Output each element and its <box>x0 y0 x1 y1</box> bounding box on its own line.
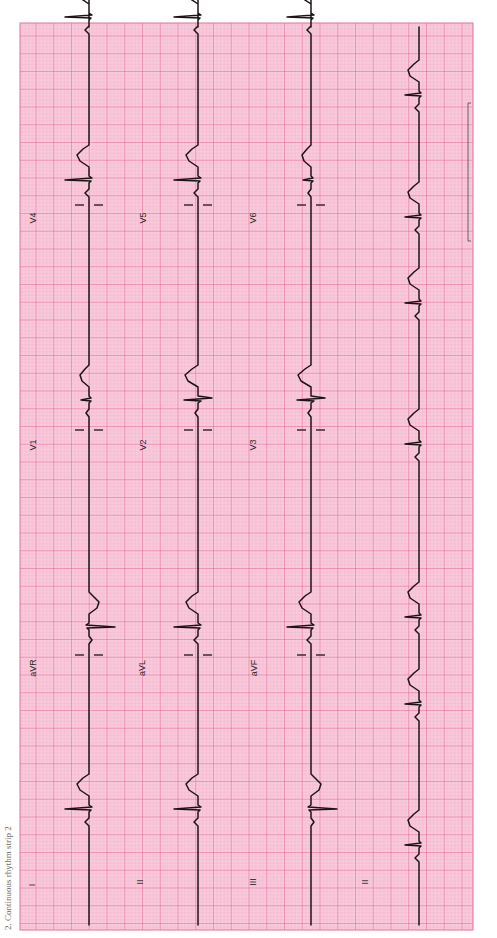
lead-label-i: I <box>27 884 37 887</box>
lead-label-ii: II <box>135 879 145 884</box>
grid-lines <box>20 23 473 930</box>
lead-label-iii: III <box>248 878 258 886</box>
lead-label-ii: II <box>360 879 370 884</box>
lead-label-v6: V6 <box>248 212 258 223</box>
lead-label-v2: V2 <box>138 439 148 450</box>
ecg-figure: IaVRV1V4IIaVLV2V5IIIaVFV3V6II 2. Continu… <box>0 0 497 938</box>
lead-label-v1: V1 <box>28 439 38 450</box>
lead-label-avf: aVF <box>249 659 259 676</box>
ecg-paper <box>20 23 473 930</box>
lead-label-v5: V5 <box>138 212 148 223</box>
figure-caption: 2. Continuous rhythm strip 2 <box>3 826 13 930</box>
lead-label-v4: V4 <box>28 212 38 223</box>
lead-label-avr: aVR <box>28 659 38 677</box>
lead-label-v3: V3 <box>248 439 258 450</box>
lead-label-avl: aVL <box>137 660 147 676</box>
